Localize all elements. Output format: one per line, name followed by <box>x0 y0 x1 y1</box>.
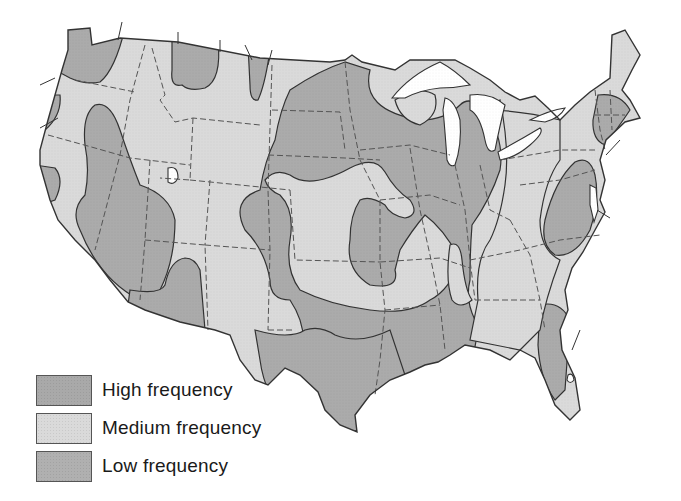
legend-item-low: Low frequency <box>36 447 262 485</box>
legend-item-medium: Medium frequency <box>36 409 262 447</box>
legend-label: High frequency <box>102 379 233 401</box>
legend: High frequency Medium frequency Low freq… <box>36 371 262 485</box>
low-frequency-swatch <box>36 451 92 482</box>
high-frequency-swatch <box>36 375 92 406</box>
legend-label: Low frequency <box>102 455 228 477</box>
legend-label: Medium frequency <box>102 417 262 439</box>
legend-item-high: High frequency <box>36 371 262 409</box>
medium-frequency-swatch <box>36 413 92 444</box>
